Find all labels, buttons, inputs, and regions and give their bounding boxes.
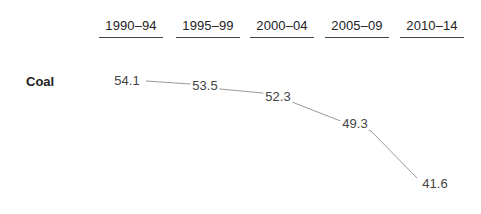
coal-trend-line [0,0,481,214]
value-label-1990-94: 54.1 [112,73,141,88]
value-label-2000-04: 52.3 [263,89,292,104]
value-label-2005-09: 49.3 [340,116,369,131]
value-label-1995-99: 53.5 [190,78,219,93]
value-label-2010-14: 41.6 [420,176,449,191]
